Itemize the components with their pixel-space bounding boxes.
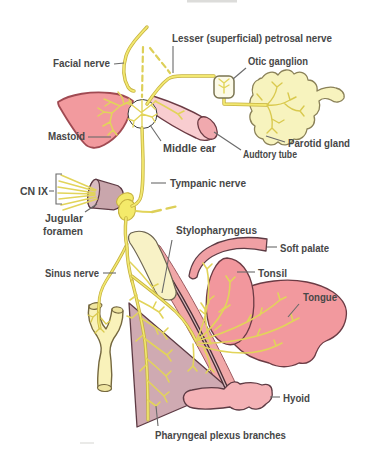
parotid-gland-shape [250,70,344,145]
facial-nerve-path [124,27,170,97]
auditory-tube-shape [149,96,222,143]
tonsil-shape [206,258,254,345]
label-sinus-nerve: Sinus nerve [45,268,99,279]
otic-ganglion-leader [233,68,246,79]
label-auditory-tube: Audtory tube [243,149,297,160]
tympanic-nerve-path [132,128,143,206]
label-cn-ix: CN IX [20,186,48,197]
facial-nerve-leader [114,63,124,64]
label-lesser-petrosal: Lesser (superficial) petrosal nerve [172,33,332,44]
label-facial-nerve: Facial nerve [53,58,110,69]
label-soft-palate: Soft palate [280,243,329,254]
carotid-bottom-opening [97,384,111,392]
cut-branch-stub [136,211,151,212]
label-tonsil: Tonsil [258,268,287,279]
label-tongue: Tongue [303,292,337,303]
cropped-text-remnant-top [187,0,237,3]
cut-branch-dashed [152,206,178,212]
middle-ear-circle [126,99,157,129]
otic-ganglion-box [214,76,234,98]
dashed-branch-diagonal [150,48,170,73]
label-stylopharyngeus: Stylopharyngeus [176,225,257,236]
glossopharyngeal-nerve-figure: Facial nerve Lesser (superficial) petros… [0,0,369,459]
label-jugular-foramen-1: Jugular [45,213,83,224]
label-jugular-foramen-2: foramen [43,226,83,237]
label-otic-ganglion: Otic ganglion [248,56,308,67]
label-parotid-gland: Parotid gland [288,138,350,149]
label-pharyngeal-plexus: Pharyngeal plexus branches [155,430,286,441]
middle-ear-leader [150,125,161,141]
label-hyoid: Hyoid [283,393,310,404]
dashed-branch-vertical [142,47,143,97]
auditory-tube-leader [214,132,241,150]
carotid-artery-shape [88,302,123,392]
label-mastoid: Mastoid [48,131,85,142]
glossopharyngeal-nerve-diagram: Facial nerve Lesser (superficial) petros… [0,0,369,459]
label-middle-ear: Middle ear [163,143,216,154]
cropped-text-remnant-bottom [80,442,94,444]
label-tympanic-nerve: Tympanic nerve [170,178,246,189]
